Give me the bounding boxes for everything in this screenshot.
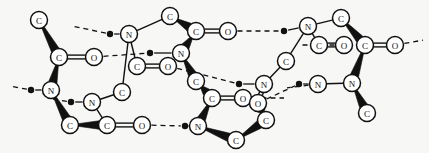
atom-c: C xyxy=(129,58,146,75)
hydrogen-atom-dot xyxy=(28,87,34,93)
bond-single xyxy=(326,83,344,84)
atom-circle xyxy=(278,53,295,70)
atom-n: N xyxy=(310,76,327,93)
atom-circle xyxy=(162,8,179,25)
atom-circle xyxy=(310,76,327,93)
atom-circle xyxy=(359,105,376,122)
hydrogen-bond-dashed xyxy=(73,26,106,33)
atom-circle xyxy=(220,23,237,40)
atom-n: N xyxy=(173,45,190,62)
atom-circle xyxy=(258,112,275,129)
bond-single xyxy=(316,20,333,24)
hydrogen-atom-dot xyxy=(107,31,113,37)
atom-circle xyxy=(99,117,116,134)
atom-c: C xyxy=(311,37,328,54)
hydrogen-atom-dot xyxy=(236,81,242,87)
atom-circle xyxy=(250,95,267,112)
atom-n: N xyxy=(84,94,101,111)
atom-circle xyxy=(204,90,221,107)
atom-c: C xyxy=(204,90,221,107)
bond-single xyxy=(123,42,128,84)
atom-circle xyxy=(228,132,245,149)
atom-c: C xyxy=(31,12,48,29)
bond-wedge xyxy=(351,52,364,77)
atom-circle xyxy=(300,18,317,35)
atom-circle xyxy=(134,117,151,134)
atom-c: C xyxy=(99,117,116,134)
atom-circle xyxy=(333,10,350,27)
atom-circle xyxy=(173,45,190,62)
bond-wedge xyxy=(49,64,59,83)
atom-circle xyxy=(62,117,79,134)
atom-o: O xyxy=(387,37,404,54)
atom-circle xyxy=(344,75,361,92)
atom-circle xyxy=(160,58,177,75)
hydrogen-atom-dot xyxy=(68,99,74,105)
hydrogen-bond-link xyxy=(288,28,299,30)
bond-wedge xyxy=(42,26,59,52)
atom-n: N xyxy=(256,76,273,93)
hydrogen-bond-dashed xyxy=(11,86,27,89)
atom-n: N xyxy=(121,26,138,43)
atom-circle xyxy=(387,37,404,54)
bond-single xyxy=(96,109,102,119)
atom-n: N xyxy=(190,118,207,135)
atom-o: O xyxy=(134,117,151,134)
atom-c: C xyxy=(51,49,68,66)
hydrogen-bond-dashed xyxy=(151,125,180,126)
molecular-structure-svg: CCONCNCOCNCCOCONCCONCCNOCNCCOCONCN xyxy=(0,0,429,153)
atom-o: O xyxy=(86,49,103,66)
atom-o: O xyxy=(250,95,267,112)
hydrogen-atom-dot xyxy=(147,50,153,56)
atom-circle xyxy=(256,76,273,93)
atom-c: C xyxy=(228,132,245,149)
bond-single xyxy=(100,95,115,100)
hydrogen-atom-dot xyxy=(281,28,287,34)
atom-o: O xyxy=(160,58,177,75)
bond-single xyxy=(131,42,135,58)
atom-o: O xyxy=(336,37,353,54)
atom-circle xyxy=(114,84,131,101)
atom-circle xyxy=(336,37,353,54)
bond-single xyxy=(290,33,303,54)
bond-single xyxy=(136,19,162,31)
atom-c: C xyxy=(359,105,376,122)
atom-circle xyxy=(129,58,146,75)
atom-c: C xyxy=(278,53,295,70)
atom-circle xyxy=(311,37,328,54)
atom-c: C xyxy=(162,8,179,25)
atom-n: N xyxy=(43,82,60,99)
hydrogen-bond-dashed xyxy=(103,53,145,56)
atom-circle xyxy=(188,73,205,90)
atom-c: C xyxy=(188,23,205,40)
bond-wedge xyxy=(78,121,99,129)
atom-circle xyxy=(121,26,138,43)
figure-canvas: CCONCNCOCNCCOCONCCONCCNOCNCCOCONCN xyxy=(0,0,429,153)
atom-c: C xyxy=(258,112,275,129)
bond-layer xyxy=(42,19,387,141)
atom-n: N xyxy=(344,75,361,92)
atom-c: C xyxy=(188,73,205,90)
atom-c: C xyxy=(62,117,79,134)
atom-circle xyxy=(84,94,101,111)
hydrogen-atom-dot xyxy=(296,81,302,87)
atom-c: C xyxy=(114,84,131,101)
atom-circle xyxy=(31,12,48,29)
atom-c: C xyxy=(333,10,350,27)
atom-circle xyxy=(43,82,60,99)
atom-n: N xyxy=(300,18,317,35)
atom-circle xyxy=(190,118,207,135)
atom-circle xyxy=(188,23,205,40)
bond-wedge xyxy=(205,128,230,142)
atom-o: O xyxy=(220,23,237,40)
hydrogen-bond-dashed xyxy=(177,68,235,83)
atom-circle xyxy=(357,37,374,54)
hydrogen-atom-dot xyxy=(182,123,188,129)
atom-circle xyxy=(51,49,68,66)
hydrogen-bond-dashed xyxy=(404,40,423,43)
atom-c: C xyxy=(357,37,374,54)
atom-circle xyxy=(86,49,103,66)
bond-single xyxy=(270,67,281,78)
